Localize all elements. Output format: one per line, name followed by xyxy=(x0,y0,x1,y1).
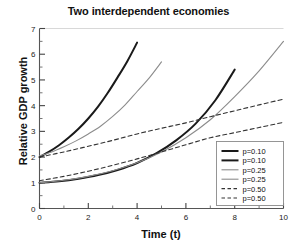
x-tick-label: 0 xyxy=(37,213,42,222)
y-tick-label: 6 xyxy=(31,50,36,59)
chart-legend[interactable]: p=0.10p=0.10p=0.25p=0.25p=0.50p=0.50 xyxy=(217,142,284,206)
x-tick-label: 2 xyxy=(86,213,91,222)
legend-label-2: p=0.25 xyxy=(243,166,266,175)
legend-label-1: p=0.10 xyxy=(243,156,266,165)
series-line-2 xyxy=(40,62,162,156)
y-tick-label: 2 xyxy=(31,153,36,162)
y-tick-label: 7 xyxy=(31,25,36,34)
legend-label-5: p=0.50 xyxy=(243,194,266,203)
y-tick-label: 4 xyxy=(31,102,36,111)
y-axis-ticks: 01234567 xyxy=(31,25,45,214)
legend-label-4: p=0.50 xyxy=(243,185,266,194)
x-tick-label: 6 xyxy=(184,213,189,222)
y-tick-label: 0 xyxy=(31,205,36,214)
plot-area: 0246810 01234567 p=0.10p=0.10p=0.25p=0.2… xyxy=(0,0,297,249)
x-tick-label: 10 xyxy=(279,213,288,222)
y-tick-label: 5 xyxy=(31,76,36,85)
x-tick-label: 4 xyxy=(135,213,140,222)
x-tick-label: 8 xyxy=(232,213,237,222)
series-line-1 xyxy=(40,70,235,183)
chart-figure: Two interdependent economies Relative GD… xyxy=(0,0,297,249)
legend-label-3: p=0.25 xyxy=(243,175,266,184)
y-tick-label: 3 xyxy=(31,127,36,136)
series-line-0 xyxy=(40,43,138,157)
y-tick-label: 1 xyxy=(31,179,36,188)
legend-label-0: p=0.10 xyxy=(243,147,266,156)
